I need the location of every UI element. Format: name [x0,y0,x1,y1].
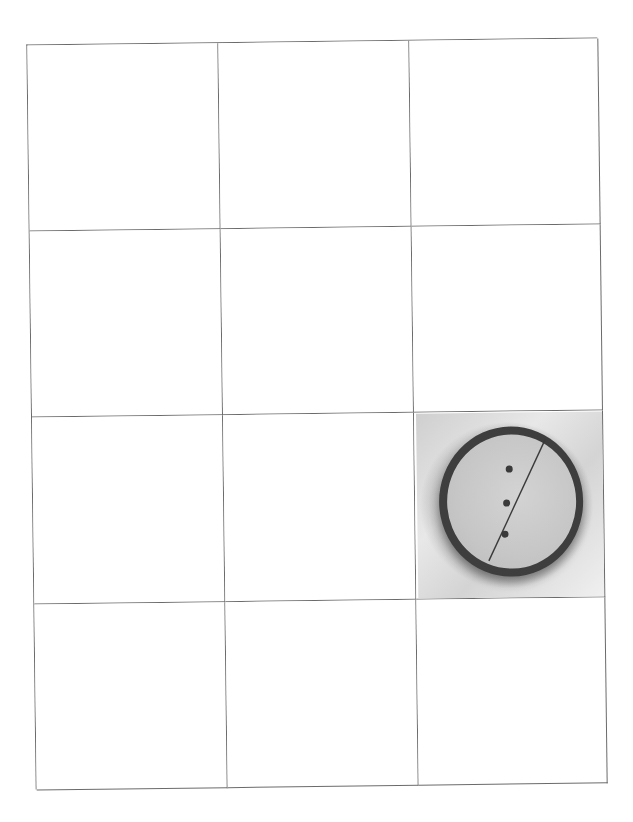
dividing-line-icon [446,434,577,570]
grid-cell-r1-c3 [409,38,600,226]
grid-cell-r4-c1 [34,602,227,790]
dot-middle [503,500,510,507]
grid-cell-r3-c2 [223,413,416,602]
grid-cell-r1-c1 [27,43,220,231]
grid-cell-r3-c1 [32,415,225,604]
dot-top [506,466,513,473]
grid-cell-r2-c3 [412,224,603,412]
grid-cell-r1-c2 [218,41,411,229]
grid-cell-r4-c2 [225,600,418,788]
petri-dish-photo [416,411,604,598]
dot-bottom [501,531,508,538]
dish-surface [446,434,577,570]
grid-cell-r3-c3 [414,410,605,599]
card-grid [26,37,606,789]
grid-cell-r2-c2 [221,227,414,415]
grid-cell-r2-c1 [30,229,223,417]
worksheet-page [0,0,633,822]
grid-cell-r4-c3 [416,597,607,785]
